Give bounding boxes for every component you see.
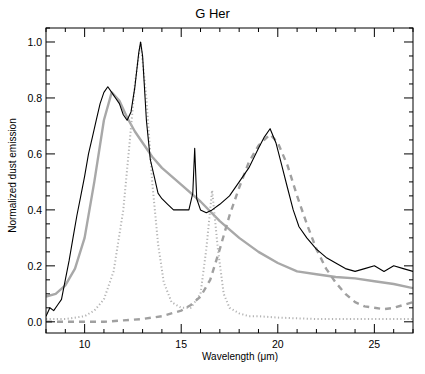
y-tick-label: 0.0 xyxy=(27,316,42,328)
x-tick-label: 15 xyxy=(175,338,187,350)
plot-area: 101520250.00.20.40.60.81.0 xyxy=(0,0,425,374)
axes-box xyxy=(46,28,413,333)
y-tick-label: 0.6 xyxy=(27,148,42,160)
series-layer xyxy=(46,42,413,322)
x-tick-label: 25 xyxy=(369,338,381,350)
y-tick-label: 0.8 xyxy=(27,92,42,104)
y-tick-label: 0.2 xyxy=(27,260,42,272)
series-solid-gray xyxy=(46,92,413,296)
x-tick-label: 20 xyxy=(272,338,284,350)
y-tick-label: 1.0 xyxy=(27,36,42,48)
y-tick-label: 0.4 xyxy=(27,204,42,216)
x-tick-label: 10 xyxy=(79,338,91,350)
series-solid-black xyxy=(46,42,413,316)
series-dotted-gray xyxy=(46,42,413,319)
